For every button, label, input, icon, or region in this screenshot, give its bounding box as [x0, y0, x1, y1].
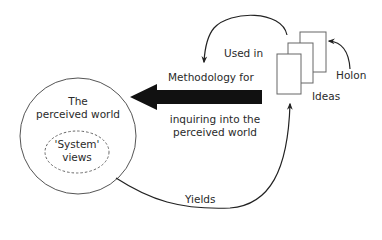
methodology-arrow — [130, 84, 262, 110]
holon-arrow — [329, 41, 350, 69]
yields-label: Yields — [185, 193, 215, 206]
holon-label: Holon — [336, 69, 366, 82]
methodology-line2: inquiring into the — [160, 113, 270, 126]
system-views-line1: 'System' — [42, 138, 112, 151]
methodology-label-bottom: inquiring into the perceived world — [160, 113, 270, 139]
perceived-world-line2: perceived world — [28, 108, 128, 121]
used-in-label: Used in — [224, 47, 263, 60]
methodology-line3: perceived world — [160, 126, 270, 139]
ideas-label: Ideas — [312, 90, 340, 103]
system-views-line2: views — [42, 151, 112, 164]
system-views-label: 'System' views — [42, 138, 112, 164]
methodology-label-top: Methodology for — [168, 71, 254, 84]
idea-sheet-front — [277, 54, 301, 94]
perceived-world-line1: The — [28, 95, 128, 108]
perceived-world-label: The perceived world — [28, 95, 128, 121]
